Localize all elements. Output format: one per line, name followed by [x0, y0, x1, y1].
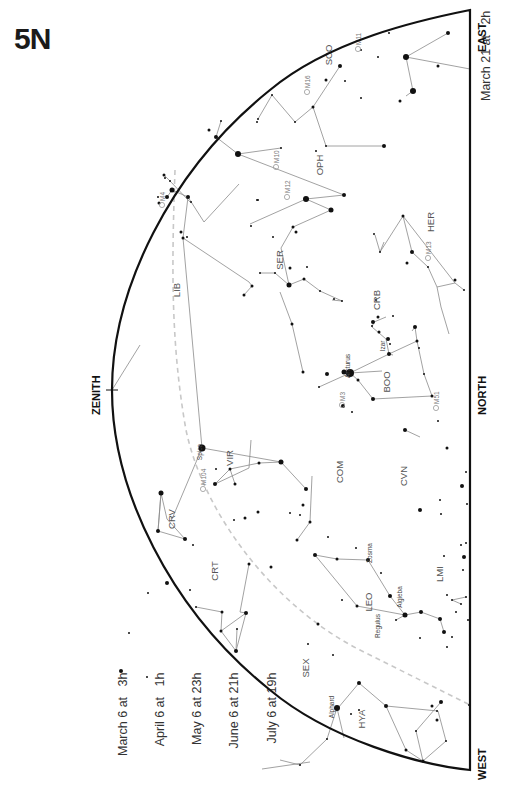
star-icon — [395, 619, 397, 621]
star-icon — [304, 487, 308, 491]
star-icon — [292, 226, 295, 229]
star-icon — [317, 623, 320, 626]
constellation-line — [249, 440, 251, 468]
star-icon — [243, 294, 246, 297]
constellation-line — [196, 607, 222, 612]
star-icon — [403, 613, 408, 618]
star-icon — [377, 316, 380, 319]
star-icon — [220, 120, 222, 122]
star-icon — [259, 272, 261, 274]
star-icon — [165, 195, 169, 199]
deep-sky-label: M4 — [159, 192, 166, 201]
constellation-line — [375, 235, 380, 252]
star-icon — [329, 208, 334, 213]
deep-sky-label: M104 — [200, 468, 207, 485]
star-icon — [270, 566, 273, 569]
star-icon — [303, 278, 306, 281]
constellation-label: LEO — [363, 592, 374, 611]
star-icon — [336, 558, 339, 561]
star-icon — [443, 555, 445, 557]
constellation-line — [416, 731, 423, 761]
star-icon — [280, 147, 282, 149]
star-icon — [146, 676, 148, 678]
star-icon — [388, 594, 392, 598]
constellation-label: CRV — [166, 508, 177, 529]
star-icon — [119, 669, 123, 673]
star-icon — [455, 611, 457, 613]
deep-sky-label: M3 — [339, 392, 346, 401]
star-icon — [315, 150, 317, 152]
star-icon — [287, 283, 292, 288]
constellation-line — [310, 476, 312, 522]
constellation-line — [416, 702, 441, 731]
star-icon — [446, 447, 449, 450]
star-icon — [463, 289, 465, 291]
constellation-line — [215, 468, 249, 484]
star-icon — [371, 325, 373, 327]
star-icon — [326, 738, 328, 740]
constellation-line — [338, 683, 359, 708]
star-icon — [302, 504, 305, 507]
constellation-line — [350, 354, 389, 373]
star-icon — [437, 420, 439, 422]
star-icon — [405, 749, 408, 752]
deep-sky-label: M12 — [284, 180, 291, 193]
star-icon — [438, 617, 442, 621]
constellation-line — [216, 121, 221, 137]
star-icon — [163, 174, 166, 177]
constellation-line — [315, 555, 357, 606]
star-icon — [250, 225, 252, 227]
star-icon — [445, 740, 447, 742]
constellation-line — [359, 683, 386, 706]
star-icon — [460, 544, 462, 546]
constellation-line — [295, 107, 313, 122]
constellation-line — [386, 339, 389, 354]
constellation-line — [386, 706, 406, 750]
constellation-label: CRT — [209, 561, 220, 581]
star-icon — [360, 97, 362, 99]
star-icon — [147, 592, 149, 594]
star-icon — [460, 603, 462, 605]
constellation-line — [250, 199, 306, 224]
constellation-line — [437, 283, 455, 287]
star-icon — [183, 537, 187, 541]
constellation-line — [221, 612, 222, 631]
star-icon — [169, 180, 171, 182]
star-icon — [221, 611, 224, 614]
star-icon — [451, 599, 453, 601]
star-icon — [244, 517, 247, 520]
star-icon — [213, 482, 217, 486]
star-icon — [410, 250, 414, 254]
star-icon — [410, 88, 416, 94]
constellation-line — [358, 380, 373, 399]
star-icon — [244, 611, 248, 615]
star-icon — [296, 539, 299, 542]
star-icon — [338, 64, 342, 68]
star-icon — [427, 266, 429, 268]
star-icon — [170, 188, 175, 193]
star-icon — [419, 610, 423, 614]
constellation-line — [202, 448, 281, 462]
constellation-line — [424, 374, 432, 396]
constellation-line — [281, 462, 306, 489]
constellation-lines — [112, 33, 470, 769]
star-icon — [371, 397, 375, 401]
star-icon — [446, 594, 448, 596]
nebula-icon — [355, 46, 360, 51]
star-icon — [333, 298, 335, 300]
deep-sky-object: M10 — [273, 150, 280, 170]
star-icon — [215, 468, 217, 470]
star-icon — [233, 519, 235, 521]
star-icon — [295, 231, 298, 234]
star-icon — [357, 681, 361, 685]
star-icon — [373, 233, 375, 235]
star-icon — [454, 279, 457, 282]
deep-sky-label: M51 — [433, 391, 440, 404]
constellation-line — [238, 154, 344, 195]
star-icon — [423, 373, 425, 375]
constellation-label: SER — [274, 250, 285, 270]
star-icon — [289, 267, 292, 270]
star-icon — [327, 536, 329, 538]
deep-sky-object: M4 — [159, 192, 166, 208]
star-icon — [465, 471, 467, 473]
